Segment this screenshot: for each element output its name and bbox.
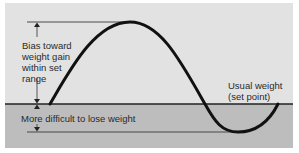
label-line: range <box>22 73 72 84</box>
usual-weight-label: Usual weight (set point) <box>228 80 282 102</box>
label-line: (set point) <box>228 91 282 102</box>
label-line: weight gain <box>22 51 72 62</box>
label-line: within set <box>22 62 72 73</box>
bias-toward-weight-gain-label: Bias toward weight gain within set range <box>22 40 72 84</box>
label-line: Bias toward <box>22 40 72 51</box>
lower-band <box>5 104 293 148</box>
more-difficult-label: More difficult to lose weight <box>21 113 135 124</box>
label-line: Usual weight <box>228 80 282 91</box>
